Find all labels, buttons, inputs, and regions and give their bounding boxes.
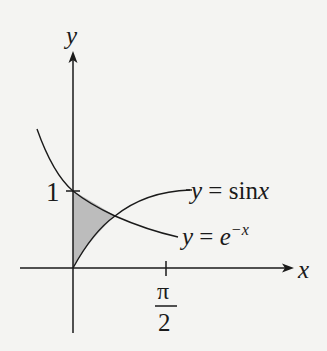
x-tick-label-numerator: π [157, 278, 169, 304]
y-tick-label: 1 [46, 177, 60, 207]
exp-curve-label: y = e−x [179, 221, 249, 250]
diagram-canvas: y x 1 π 2 y = sinx y = e−x [0, 0, 327, 351]
y-axis-label: y [63, 22, 78, 49]
x-axis-label: x [297, 256, 309, 283]
x-tick-label-denominator: 2 [158, 309, 171, 336]
sine-curve-label: y = sinx [188, 177, 269, 204]
